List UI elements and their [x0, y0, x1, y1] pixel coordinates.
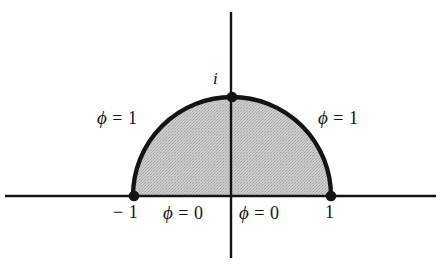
equals-sign-left: =	[107, 108, 128, 128]
axis-label-one: 1	[325, 203, 335, 221]
phi-symbol-left: ϕ	[97, 107, 107, 128]
equals-sign-right: =	[328, 108, 349, 128]
phi-symbol-right: ϕ	[318, 107, 328, 128]
diagram-canvas	[0, 0, 440, 266]
phi-value-zero-right: 0	[270, 203, 280, 223]
axis-label-minus-one: − 1	[113, 203, 138, 221]
equals-sign-zero-left: =	[173, 203, 194, 223]
boundary-label-phi-equals-zero-right: ϕ = 0	[239, 203, 280, 222]
phi-value-right: 1	[349, 108, 359, 128]
phi-value-zero-left: 0	[194, 203, 204, 223]
phi-value-left: 1	[128, 108, 138, 128]
boundary-label-phi-equals-one-right: ϕ = 1	[318, 108, 359, 127]
complex-plane-diagram: ϕ = 1 ϕ = 1 ϕ = 0 ϕ = 0 − 1 1 i	[0, 0, 440, 266]
boundary-label-phi-equals-one-left: ϕ = 1	[97, 108, 138, 127]
point-minus-one-dot	[129, 191, 140, 202]
equals-sign-zero-right: =	[249, 203, 270, 223]
phi-symbol-zero-right: ϕ	[239, 202, 249, 223]
axis-label-imaginary-unit: i	[213, 70, 218, 87]
point-one-dot	[326, 191, 337, 202]
phi-symbol-zero-left: ϕ	[163, 202, 173, 223]
point-i-dot	[227, 92, 238, 103]
boundary-label-phi-equals-zero-left: ϕ = 0	[163, 203, 204, 222]
